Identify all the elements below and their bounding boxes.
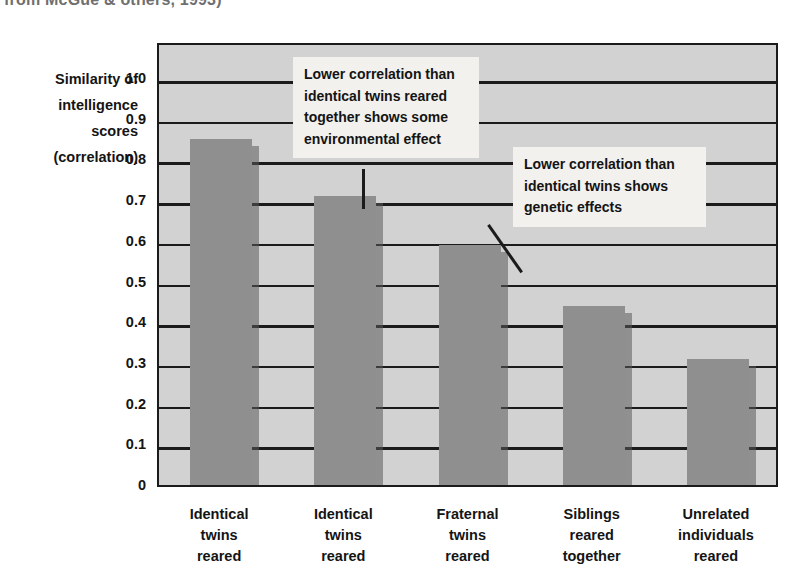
y-axis-tick-label: 0.4	[104, 314, 146, 330]
callout-leader-line-1	[362, 169, 365, 209]
y-axis-tick-label: 0.7	[104, 192, 146, 208]
y-axis-tick-label: 0.8	[104, 151, 146, 167]
x-axis-category-label-line: Siblings	[528, 504, 656, 525]
x-axis-category-label-line: Unrelated	[652, 504, 780, 525]
x-axis-category-label-line: reared	[279, 546, 407, 567]
x-axis-category-label: Identicaltwinsreared	[279, 504, 407, 567]
x-axis-category-label-line: Identical	[279, 504, 407, 525]
x-axis-category-label-line: individuals	[652, 525, 780, 546]
x-axis-category-label: Unrelatedindividualsreared	[652, 504, 780, 567]
y-axis-tick-label: 1.0	[104, 70, 146, 86]
y-axis-tick-label: 0	[104, 477, 146, 493]
x-axis-category-label-line: together	[528, 546, 656, 567]
bar	[314, 196, 376, 485]
x-axis-category-label-line: twins	[404, 525, 532, 546]
x-axis-category-label: Fraternaltwinsreared	[404, 504, 532, 567]
x-axis-category-label-line: twins	[279, 525, 407, 546]
x-axis-category-label: Siblingsrearedtogether	[528, 504, 656, 567]
y-axis-tick-label: 0.1	[104, 436, 146, 452]
bar	[439, 245, 501, 485]
chart-figure: from McGue & others, 1993) Similarity of…	[0, 0, 800, 568]
bar	[190, 139, 252, 485]
source-caption: from McGue & others, 1993)	[4, 0, 222, 9]
y-axis-tick-label: 0.5	[104, 274, 146, 290]
x-axis-category-label-line: reared	[155, 546, 283, 567]
x-axis-category-label-line: reared	[528, 525, 656, 546]
x-axis-category-label-line: twins	[155, 525, 283, 546]
y-axis-tick-label: 0.9	[104, 111, 146, 127]
bar	[687, 359, 749, 485]
bar	[563, 306, 625, 485]
annotation-callout-environmental: Lower correlation than identical twins r…	[293, 57, 479, 158]
x-axis-category-label-line: reared	[652, 546, 780, 567]
y-axis-tick-label: 0.6	[104, 233, 146, 249]
x-axis-category-label: Identicaltwinsreared	[155, 504, 283, 567]
x-axis-category-label-line: Fraternal	[404, 504, 532, 525]
y-axis-tick-label: 0.2	[104, 396, 146, 412]
y-axis-tick-label: 0.3	[104, 355, 146, 371]
x-axis-category-label-line: Identical	[155, 504, 283, 525]
x-axis-category-label-line: reared	[404, 546, 532, 567]
annotation-callout-genetic: Lower correlation than identical twins s…	[513, 147, 706, 227]
